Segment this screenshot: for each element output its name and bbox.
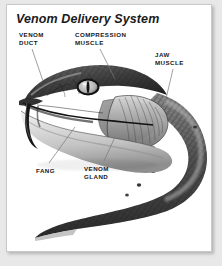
label-compression-muscle-line1: COMPRESSION: [75, 31, 126, 39]
page-title: Venom Delivery System: [16, 12, 159, 26]
label-jaw-muscle-line2: MUSCLE: [155, 59, 184, 67]
label-venom-duct-line1: VENOM: [19, 31, 44, 39]
label-venom-duct-line2: DUCT: [19, 39, 44, 47]
label-fang: FANG: [36, 167, 55, 175]
figure-panel: Venom Delivery System VENOM DUCT COMPRES…: [6, 4, 212, 252]
label-venom-gland: VENOM GLAND: [84, 165, 109, 181]
label-venom-gland-line2: GLAND: [84, 173, 109, 181]
label-fang-line1: FANG: [36, 167, 55, 175]
label-compression-muscle: COMPRESSION MUSCLE: [75, 31, 126, 47]
label-compression-muscle-line2: MUSCLE: [75, 39, 126, 47]
label-venom-gland-line1: VENOM: [84, 165, 109, 173]
label-jaw-muscle-line1: JAW: [155, 51, 184, 59]
label-jaw-muscle: JAW MUSCLE: [155, 51, 184, 67]
label-venom-duct: VENOM DUCT: [19, 31, 44, 47]
